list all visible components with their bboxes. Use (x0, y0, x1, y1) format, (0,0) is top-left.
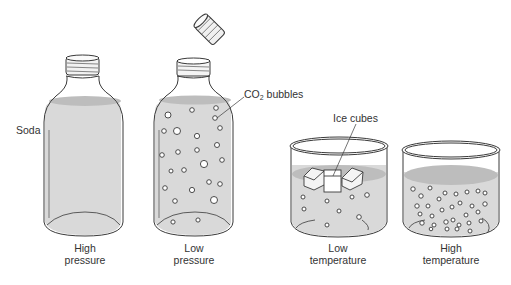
bottle-closed (44, 55, 123, 236)
beaker-warm (402, 141, 500, 237)
caption-line2: temperature (411, 254, 491, 266)
caption-low-temperature: Low temperature (298, 242, 378, 266)
co2-suffix: bubbles (264, 88, 304, 100)
co2-prefix: CO (244, 88, 260, 100)
caption-line1: Low (164, 242, 224, 254)
ice-cubes-label: Ice cubes (333, 112, 378, 124)
co2-bubbles-label: CO2 bubbles (244, 88, 303, 104)
caption-line2: pressure (55, 254, 115, 266)
ice-cubes (304, 168, 363, 192)
soda-label: Soda (16, 124, 41, 136)
caption-line2: temperature (298, 254, 378, 266)
caption-line1: High (55, 242, 115, 254)
caption-high-pressure: High pressure (55, 242, 115, 266)
caption-line1: High (411, 242, 491, 254)
caption-low-pressure: Low pressure (164, 242, 224, 266)
caption-line2: pressure (164, 254, 224, 266)
caption-high-temperature: High temperature (411, 242, 491, 266)
beaker-cold (290, 124, 388, 237)
caption-line1: Low (298, 242, 378, 254)
bottle-cap-icon (192, 12, 225, 45)
bottle-open (154, 12, 244, 236)
